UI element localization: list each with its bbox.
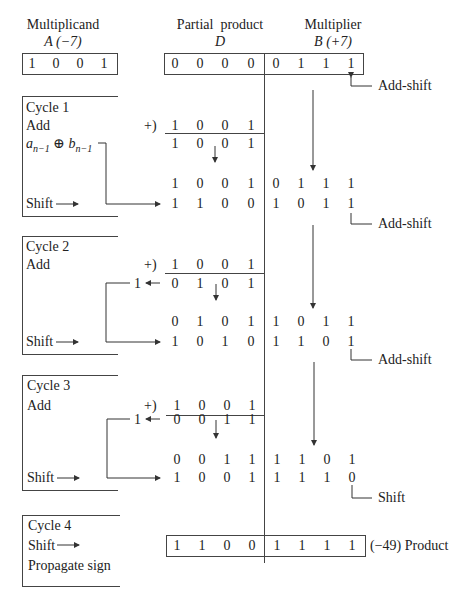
product-label: (−49) Product (370, 538, 448, 554)
cycle2-plus: +) (144, 257, 157, 273)
bit: 1 (321, 538, 333, 554)
bit: 0 (246, 538, 258, 554)
bit: 1 (169, 136, 181, 152)
bit: 0 (219, 196, 231, 212)
bit: 0 (171, 452, 183, 468)
bit: 1 (196, 538, 208, 554)
bit: 0 (219, 314, 231, 330)
bit: 0 (346, 470, 358, 486)
cycle4-propagate-sign: Propagate sign (28, 558, 111, 574)
bit: 1 (221, 452, 233, 468)
bit: 0 (194, 334, 206, 350)
cycle4-title: Cycle 4 (28, 518, 71, 534)
cycle2-shift: Shift (26, 334, 53, 350)
cycle2-sum-line (165, 273, 265, 274)
cycle3-plus: +) (144, 398, 157, 414)
bit: 1 (245, 314, 257, 330)
bit: 1 (169, 257, 181, 273)
bit: 1 (194, 276, 206, 292)
bit: 0 (219, 136, 231, 152)
cycle1-shift: Shift (26, 196, 53, 212)
bit: 1 (346, 538, 358, 554)
bit: 1 (194, 196, 206, 212)
note-add-shift-0: Add-shift (378, 78, 432, 94)
bit: 1 (345, 176, 357, 192)
cycle3-carry: 1 (134, 412, 141, 428)
bit: 0 (171, 412, 183, 428)
bit: 1 (345, 334, 357, 350)
bit: 0 (295, 196, 307, 212)
bit: 1 (245, 257, 257, 273)
bit: 0 (221, 470, 233, 486)
bit: 1 (320, 314, 332, 330)
cycle1-box-left (22, 96, 23, 216)
bit: 0 (245, 196, 257, 212)
bit: 0 (196, 470, 208, 486)
cycle2-box-bottom (22, 354, 118, 355)
bit: 1 (270, 196, 282, 212)
bit: 0 (221, 538, 233, 554)
bit: 1 (171, 538, 183, 554)
bit: 0 (270, 176, 282, 192)
bit: 1 (271, 470, 283, 486)
bit: 1 (271, 538, 283, 554)
bit: 1 (245, 136, 257, 152)
bit: 0 (320, 334, 332, 350)
note-add-shift-1: Add-shift (378, 216, 432, 232)
bit: 1 (245, 176, 257, 192)
bit: 1 (296, 538, 308, 554)
cycle1-xor-label: an−1 ⊕ bn−1 (26, 136, 92, 157)
bit: 1 (246, 452, 258, 468)
bit: 0 (194, 257, 206, 273)
bit: 0 (196, 412, 208, 428)
bit: 1 (219, 334, 231, 350)
cycle1-add: Add (26, 118, 50, 134)
bit: 1 (221, 412, 233, 428)
bit: 1 (345, 196, 357, 212)
bit: 1 (171, 470, 183, 486)
cycle2-add: Add (26, 257, 50, 273)
bit: 0 (219, 118, 231, 134)
cycle2-carry: 1 (134, 276, 141, 292)
bit: 0 (169, 276, 181, 292)
bit: 1 (295, 176, 307, 192)
bit: 0 (295, 314, 307, 330)
bit: 1 (296, 470, 308, 486)
bit: 1 (271, 452, 283, 468)
bit: 1 (169, 176, 181, 192)
bit: 1 (295, 334, 307, 350)
bit: 0 (194, 136, 206, 152)
cycle3-add: Add (27, 398, 51, 414)
cycle3-box-top (22, 375, 118, 376)
note-shift-3: Shift (378, 490, 405, 506)
bit: 1 (245, 118, 257, 134)
bit: 0 (169, 314, 181, 330)
bit: 1 (320, 196, 332, 212)
cycle3-shift: Shift (27, 470, 54, 486)
bit: 1 (346, 452, 358, 468)
bit: 1 (245, 276, 257, 292)
bit: 1 (246, 470, 258, 486)
bit: 1 (345, 314, 357, 330)
bit: 1 (321, 470, 333, 486)
bit: 1 (169, 334, 181, 350)
bit: 0 (219, 257, 231, 273)
cycle3-box-left (22, 375, 23, 490)
cycle4-shift: Shift (28, 538, 55, 554)
cycle2-title: Cycle 2 (26, 239, 69, 255)
bit: 0 (196, 452, 208, 468)
bit: 0 (194, 176, 206, 192)
cycle3-title: Cycle 3 (27, 378, 70, 394)
cycle2-box-left (22, 236, 23, 354)
bit: 0 (321, 452, 333, 468)
bit: 1 (270, 334, 282, 350)
cycle1-box-top (22, 96, 118, 97)
cycle1-box-bottom (22, 216, 118, 217)
cycle1-plus: +) (144, 118, 157, 134)
cycle1-title: Cycle 1 (26, 100, 69, 116)
bit: 1 (246, 412, 258, 428)
bit: 1 (296, 452, 308, 468)
bit: 0 (245, 334, 257, 350)
bit: 1 (169, 196, 181, 212)
bit: 1 (169, 118, 181, 134)
